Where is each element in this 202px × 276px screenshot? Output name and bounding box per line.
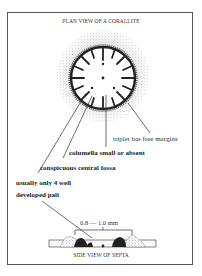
label-pali-line1: usually only 4 well (16, 180, 71, 187)
leader-pali (38, 93, 86, 173)
side-view-title: SIDE VIEW OF SEPTA (0, 253, 202, 259)
septa-side-view (49, 235, 156, 247)
label-columella: columella small or absent (69, 150, 145, 157)
corallite-plan-view (55, 28, 151, 124)
label-fossa: conspicuous central fossa (40, 165, 115, 172)
dimension-bracket (75, 227, 132, 235)
label-pali-line2: developed pali (16, 192, 59, 199)
label-triplet: triplet has free margins (113, 136, 178, 143)
dimension-label: 0.8 — 1.0 mm (80, 220, 118, 227)
